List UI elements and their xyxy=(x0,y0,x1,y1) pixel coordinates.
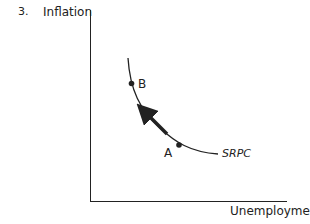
x-axis-label: Unemployment xyxy=(230,204,310,218)
srpc-curve xyxy=(128,58,218,154)
srpc-label: SRPC xyxy=(222,147,251,160)
question-number: 3. xyxy=(18,5,29,18)
point-a-dot xyxy=(176,142,182,148)
point-a-label: A xyxy=(164,146,172,160)
point-b-dot xyxy=(129,81,135,87)
y-axis-label: Inflation xyxy=(43,5,92,19)
phillips-curve-diagram xyxy=(0,0,310,224)
movement-arrow xyxy=(144,111,167,134)
point-b-label: B xyxy=(138,77,146,91)
